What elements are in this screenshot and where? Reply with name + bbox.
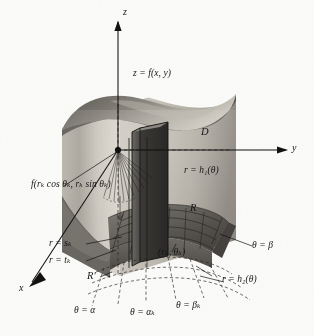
polar-integral-figure: z y x z = f(x, y) D r = h₁(θ) f(rₖ cos θ… — [0, 0, 314, 336]
ray-beta-k — [168, 257, 176, 300]
prism-front-face — [140, 122, 168, 262]
theta-alpha-k-label: θ = αₖ — [130, 308, 155, 318]
axis-label-z: z — [123, 7, 127, 17]
leader-h2b — [196, 266, 212, 276]
theta-beta-k-label: θ = βₖ — [176, 301, 201, 311]
z-axis-arrow — [114, 21, 121, 32]
theta-beta-label: θ = β — [252, 241, 273, 251]
figure-graphics — [0, 0, 314, 336]
radius-inner-label: r = tₖ — [49, 256, 71, 266]
surface-equation-label: z = f(x, y) — [133, 69, 171, 79]
domain-label-D: D — [201, 127, 209, 138]
prism-left-face — [132, 128, 140, 266]
axis-label-y: y — [292, 143, 297, 153]
region-R-label: R — [190, 203, 197, 214]
sample-point-label: (rₖ, θₖ) — [158, 248, 185, 258]
axis-label-x: x — [19, 283, 24, 293]
inner-boundary-label: r = h₁(θ) — [184, 166, 219, 176]
region-Rprime-label: R′ — [87, 271, 96, 282]
ray-mid2 — [190, 259, 204, 298]
theta-alpha-label: θ = α — [74, 306, 95, 316]
sample-prism-group — [132, 122, 168, 266]
radius-outer-label: r = sₖ — [49, 239, 72, 249]
sample-height-label: f(rₖ cos θₖ, rₖ sin θₖ) — [31, 180, 111, 190]
outer-boundary-label: r = h₂(θ) — [222, 275, 257, 285]
y-axis-arrow — [277, 146, 288, 153]
